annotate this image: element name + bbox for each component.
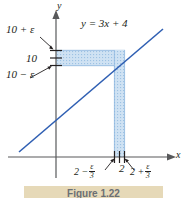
y-axis-letter: y [57, 1, 61, 11]
x-label-lower-fraction: ε3 [89, 163, 95, 181]
leader-arrowhead-x-upper [125, 158, 129, 162]
x-label-upper-denominator: 3 [145, 172, 151, 180]
x-label-lower: 2 −ε3 [74, 163, 95, 181]
leader-arrowhead-x-lower [110, 158, 114, 162]
y-label-lower: 10 − ε [6, 69, 34, 80]
x-label-upper-lead: 2 + [130, 166, 144, 177]
x-label-upper-fraction: ε3 [145, 163, 151, 181]
function-equation-label: y = 3x + 4 [81, 18, 128, 29]
leader-arrow-x-lower [105, 160, 113, 170]
y-label-upper: 10 + ε [6, 24, 34, 35]
x-label-lower-lead: 2 − [74, 166, 88, 177]
figure-caption: Figure 1.22 [24, 189, 163, 198]
leader-arrow-y-upper [40, 37, 52, 48]
y-label-center: 10 [26, 53, 37, 64]
leader-arrowhead-y-lower [47, 66, 51, 70]
function-line [19, 29, 163, 152]
x-label-upper: 2 +ε3 [130, 163, 151, 181]
x-label-lower-denominator: 3 [89, 172, 95, 180]
y-axis-arrow [52, 10, 59, 19]
x-axis-arrow [167, 153, 176, 160]
x-label-center: 2 [119, 163, 125, 174]
x-axis-letter: x [176, 150, 180, 160]
